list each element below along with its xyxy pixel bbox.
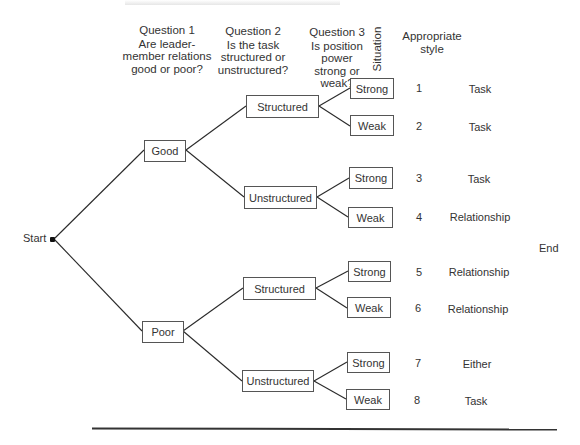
node-power-4: Weak bbox=[348, 207, 393, 228]
situation-number-3: 3 bbox=[413, 172, 425, 184]
node-power-2: Weak bbox=[350, 115, 394, 136]
node-poor: Poor bbox=[142, 321, 184, 343]
node-label: Structured bbox=[254, 283, 305, 295]
node-label: Structured bbox=[257, 101, 308, 113]
situation-number-7: 7 bbox=[412, 357, 424, 369]
style-4: Relationship bbox=[440, 211, 520, 223]
node-power-7: Strong bbox=[347, 352, 390, 373]
node-good: Good bbox=[144, 140, 186, 162]
edge-start-good bbox=[54, 150, 144, 239]
style-2: Task bbox=[440, 121, 520, 133]
node-label: Weak bbox=[358, 120, 386, 132]
node-power-3: Strong bbox=[349, 167, 393, 189]
style-8: Task bbox=[436, 395, 516, 407]
style-3: Task bbox=[439, 173, 519, 185]
edge-good-unstructured bbox=[186, 150, 244, 197]
node-label: Weak bbox=[357, 212, 385, 224]
edge-poor-structured bbox=[183, 288, 243, 331]
situation-number-5: 5 bbox=[413, 266, 425, 278]
node-poor-label: Poor bbox=[151, 326, 174, 338]
node-good-unstructured: Unstructured bbox=[244, 186, 317, 209]
node-label: Unstructured bbox=[249, 192, 312, 204]
node-power-6: Weak bbox=[347, 297, 391, 318]
situation-number-1: 1 bbox=[413, 82, 425, 94]
start-label: Start bbox=[23, 232, 46, 244]
situation-number-8: 8 bbox=[411, 394, 423, 406]
node-label: Weak bbox=[354, 394, 382, 406]
node-label: Unstructured bbox=[247, 375, 310, 387]
node-good-structured: Structured bbox=[246, 95, 319, 118]
edge-good-structured bbox=[186, 106, 246, 150]
node-label: Strong bbox=[356, 83, 388, 95]
start-node-icon bbox=[50, 237, 55, 242]
style-6: Relationship bbox=[438, 303, 518, 315]
edge-start-poor bbox=[54, 239, 142, 331]
style-7: Either bbox=[437, 358, 517, 370]
style-5: Relationship bbox=[439, 266, 519, 278]
node-power-5: Strong bbox=[348, 261, 391, 282]
node-power-1: Strong bbox=[350, 78, 394, 99]
node-label: Strong bbox=[352, 357, 384, 369]
node-good-label: Good bbox=[152, 145, 179, 157]
style-1: Task bbox=[440, 83, 520, 95]
edge-poor-unstructured bbox=[183, 331, 242, 381]
node-poor-unstructured: Unstructured bbox=[242, 370, 314, 392]
node-label: Strong bbox=[355, 172, 387, 184]
node-power-8: Weak bbox=[346, 389, 390, 410]
situation-number-4: 4 bbox=[413, 211, 425, 223]
end-label: End bbox=[539, 242, 559, 254]
situation-number-6: 6 bbox=[412, 302, 424, 314]
node-label: Weak bbox=[355, 302, 383, 314]
situation-number-2: 2 bbox=[413, 120, 425, 132]
node-label: Strong bbox=[353, 266, 385, 278]
node-poor-structured: Structured bbox=[243, 277, 316, 300]
